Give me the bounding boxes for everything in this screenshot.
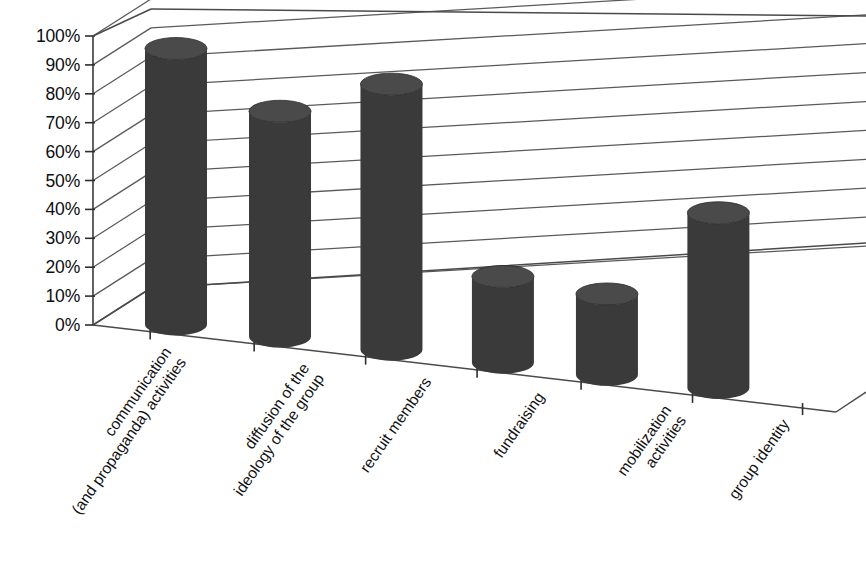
bar-chart-3d: 100%90%80%70%60%50%40%30%20%10%0% commun… xyxy=(0,0,866,569)
bar-cylinder xyxy=(249,100,311,347)
bar-cylinder xyxy=(145,38,207,336)
bar-cylinder xyxy=(687,202,749,399)
bar-body xyxy=(360,84,422,360)
bar-cylinder xyxy=(360,73,422,360)
category-label: fundraising xyxy=(490,389,547,461)
bar-top-cap xyxy=(687,202,749,224)
gridline-depth-connector xyxy=(93,86,151,123)
y-axis xyxy=(85,36,95,325)
category-label-line: (and propaganda) activities xyxy=(68,354,189,517)
bar-cylinder xyxy=(576,283,638,386)
bar-body xyxy=(145,49,207,336)
category-label: diffusion of theideology of the group xyxy=(215,360,327,499)
y-tick-label: 10% xyxy=(46,286,80,306)
y-tick-label: 50% xyxy=(46,171,80,191)
gridline-depth-connector xyxy=(93,28,151,65)
category-label-line: recruit members xyxy=(356,374,434,476)
y-tick-label: 60% xyxy=(46,142,80,162)
bars-group xyxy=(145,38,749,399)
bar-top-cap xyxy=(145,38,207,60)
gridline-depth-connector xyxy=(93,0,151,36)
bar-top-cap xyxy=(360,73,422,95)
y-tick-label: 30% xyxy=(46,228,80,248)
gridline-depth-connector xyxy=(93,172,151,209)
y-tick-labels: 100%90%80%70%60%50%40%30%20%10%0% xyxy=(36,26,80,335)
y-tick-label: 0% xyxy=(55,315,80,335)
gridline-depth-connector xyxy=(93,57,151,94)
category-label: group identity xyxy=(725,416,792,502)
bar-body xyxy=(687,213,749,399)
category-labels: communication(and propaganda) activities… xyxy=(53,344,792,517)
bar-top-cap xyxy=(472,265,534,287)
gridline-depth-connector xyxy=(93,230,151,267)
gridline-depth-connector xyxy=(93,201,151,238)
category-label: mobilizationactivities xyxy=(614,402,690,489)
bar-top-cap xyxy=(576,283,638,305)
bar-cylinder xyxy=(472,265,534,373)
gridline xyxy=(151,0,866,28)
category-label-line: fundraising xyxy=(490,389,547,461)
category-label-line: group identity xyxy=(725,416,792,502)
y-tick-label: 90% xyxy=(46,55,80,75)
bar-body xyxy=(472,276,534,373)
category-label: recruit members xyxy=(356,374,434,476)
bar-body xyxy=(576,294,638,386)
y-tick-label: 70% xyxy=(46,113,80,133)
gridline-depth-connector xyxy=(93,115,151,152)
y-tick-label: 20% xyxy=(46,257,80,277)
chart-container: 100%90%80%70%60%50%40%30%20%10%0% commun… xyxy=(0,0,866,569)
y-tick-label: 80% xyxy=(46,84,80,104)
y-tick-label: 40% xyxy=(46,199,80,219)
bar-top-cap xyxy=(249,100,311,122)
gridline-depth-connector xyxy=(93,259,151,296)
bar-body xyxy=(249,111,311,347)
category-label: communication(and propaganda) activities xyxy=(53,344,189,517)
page-bottom-artifact-text xyxy=(0,559,866,569)
y-tick-label: 100% xyxy=(36,26,80,46)
gridline-depth-connector xyxy=(93,144,151,181)
